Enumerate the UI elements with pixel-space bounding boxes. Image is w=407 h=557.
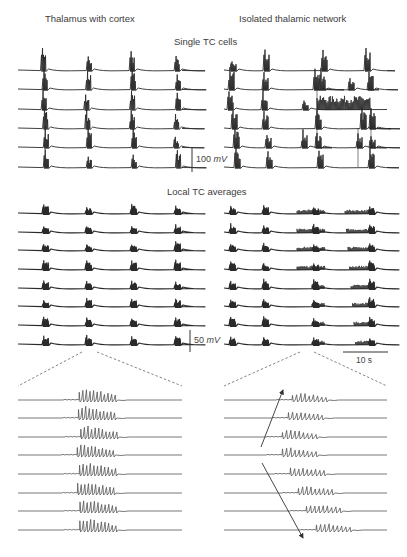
avg-left-trace xyxy=(18,317,205,326)
zoom-right-trace xyxy=(224,506,387,513)
avg-right-noise xyxy=(356,341,372,345)
avg-left-trace xyxy=(18,204,205,214)
single-tc-left-trace xyxy=(18,149,206,168)
avg-left-trace xyxy=(18,260,205,270)
zoom-guide-right-a xyxy=(224,352,300,386)
single-tc-right-trace xyxy=(224,48,395,71)
zoom-left-trace xyxy=(18,426,182,439)
zoom-left-trace xyxy=(18,463,182,476)
figure-canvas xyxy=(0,0,407,557)
zoom-right-traces xyxy=(224,394,387,532)
zoom-right-trace xyxy=(224,430,387,439)
single-tc-right-trace xyxy=(224,108,400,130)
zoom-right-trace xyxy=(224,524,387,532)
zoom-right-trace xyxy=(224,394,387,402)
single-tc-right-traces xyxy=(224,48,400,168)
avg-right-trace xyxy=(224,279,399,289)
avg-right-noise xyxy=(297,229,325,233)
zoom-guide-right-b xyxy=(314,352,387,386)
avg-right-trace xyxy=(224,298,399,308)
zoom-right-trace xyxy=(224,487,387,495)
avg-right-noise xyxy=(297,247,325,251)
single-tc-left-trace xyxy=(18,88,206,110)
zoom-right-trace xyxy=(224,448,387,457)
single-tc-right-trace xyxy=(224,146,399,169)
avg-right-traces xyxy=(224,205,399,345)
zoom-right-trace xyxy=(224,412,387,420)
avg-right-noise xyxy=(345,210,372,214)
avg-left-trace xyxy=(18,224,205,233)
avg-right-noise xyxy=(353,303,372,307)
zoom-left-trace xyxy=(18,519,182,532)
avg-right-trace xyxy=(224,337,399,345)
zoom-guide-left-a xyxy=(18,352,82,386)
avg-right-noise xyxy=(297,266,325,270)
avg-left-trace xyxy=(18,242,205,252)
zoom-left-trace xyxy=(18,445,182,457)
avg-left-trace xyxy=(18,298,205,307)
zoom-right-trace xyxy=(224,468,387,476)
zoom-left-trace xyxy=(18,390,182,402)
zoom-left-trace xyxy=(18,406,182,420)
zoom-left-traces xyxy=(18,390,182,532)
zoom-left-trace xyxy=(18,483,182,495)
avg-right-noise xyxy=(297,210,325,214)
zoom-left-trace xyxy=(18,501,182,513)
avg-left-trace xyxy=(18,281,205,290)
avg-left-traces xyxy=(18,204,205,345)
zoom-guide-left-b xyxy=(97,352,182,386)
avg-right-noise xyxy=(312,322,325,326)
avg-right-trace xyxy=(224,317,399,327)
single-tc-left-trace xyxy=(18,48,205,72)
single-tc-right-trace xyxy=(224,127,400,149)
single-tc-left-traces xyxy=(18,48,206,169)
avg-left-trace xyxy=(18,335,205,345)
propagation-arrow-up-icon xyxy=(261,390,283,447)
